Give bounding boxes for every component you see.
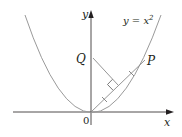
point-p-label: P [147, 55, 155, 67]
perpendicular-q [93, 58, 118, 85]
point-q-label: Q [76, 53, 86, 65]
y-axis-arrow-icon [88, 10, 93, 18]
right-angle-mark [108, 79, 114, 90]
parabola-diagram [0, 0, 182, 137]
equation-exponent: 2 [149, 14, 153, 22]
x-axis-arrow-icon [166, 109, 174, 114]
x-axis-label: x [164, 117, 170, 128]
y-axis-label: y [82, 9, 88, 20]
equation-label: y = x2 [123, 16, 154, 26]
segment-op [91, 60, 145, 112]
equation-text: y = x [123, 15, 149, 26]
y-axis [88, 10, 93, 125]
origin-label: 0 [83, 116, 89, 126]
